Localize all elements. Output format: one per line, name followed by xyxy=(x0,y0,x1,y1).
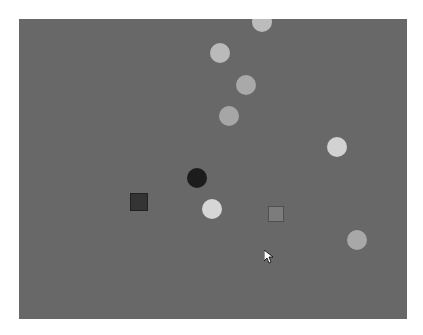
square-token[interactable] xyxy=(268,206,284,222)
circle-token[interactable] xyxy=(210,43,230,63)
circle-token[interactable] xyxy=(347,230,367,250)
circle-token[interactable] xyxy=(252,19,272,32)
game-canvas[interactable] xyxy=(19,19,407,319)
circle-token[interactable] xyxy=(202,199,222,219)
mouse-cursor-icon xyxy=(264,249,274,263)
circle-token[interactable] xyxy=(327,137,347,157)
square-token[interactable] xyxy=(130,193,148,211)
circle-token[interactable] xyxy=(236,75,256,95)
page xyxy=(0,0,423,335)
circle-token[interactable] xyxy=(187,168,207,188)
circle-token[interactable] xyxy=(219,106,239,126)
